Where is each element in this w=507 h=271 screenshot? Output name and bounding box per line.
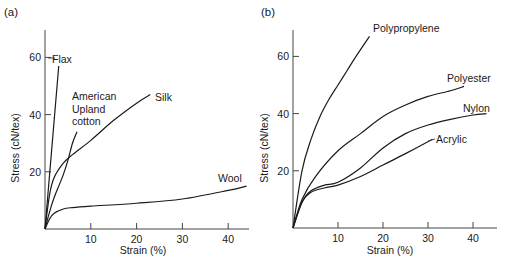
series-line-nylon <box>293 114 487 228</box>
x-tick-label: 10 <box>85 233 97 245</box>
y-tick-label: 20 <box>277 165 289 177</box>
x-tick-label: 40 <box>467 232 479 244</box>
stress-strain-charts: (a)10203040204060Strain (%)Stress (cN/te… <box>0 0 507 271</box>
series-label-flax: Flax <box>52 53 73 65</box>
series-label-polyester: Polyester <box>447 72 491 84</box>
series-label-nylon: Nylon <box>463 102 490 114</box>
y-axis-label: Stress (cN/tex) <box>258 113 270 182</box>
series-label-polypropylene: Polypropylene <box>373 22 440 34</box>
series-line-acrylic <box>293 139 433 228</box>
x-axis-label: Strain (%) <box>120 244 167 256</box>
x-tick-label: 30 <box>177 233 189 245</box>
x-tick-label: 10 <box>332 232 344 244</box>
y-axis-label: Stress (cN/tex) <box>9 113 21 182</box>
panel-label: (a) <box>4 6 18 18</box>
series-label-acrylic: Acrylic <box>436 133 467 145</box>
series-line-american-upland-cotton <box>45 132 77 229</box>
x-tick-label: 30 <box>422 232 434 244</box>
series-label-american-upland-cotton: American <box>72 90 117 102</box>
panel-label: (b) <box>261 6 275 18</box>
series-line-wool <box>45 186 247 229</box>
series-label-wool: Wool <box>218 172 242 184</box>
x-tick-label: 40 <box>222 233 234 245</box>
series-label-american-upland-cotton: cotton <box>72 115 101 127</box>
y-tick-label: 40 <box>277 108 289 120</box>
series-label-american-upland-cotton: Upland <box>72 103 105 115</box>
y-tick-label: 60 <box>29 51 41 63</box>
y-tick-label: 60 <box>277 50 289 62</box>
y-tick-label: 20 <box>29 166 41 178</box>
series-line-polyester <box>293 86 464 228</box>
x-axis-label: Strain (%) <box>367 244 414 256</box>
series-label-silk: Silk <box>155 91 173 103</box>
x-tick-label: 20 <box>377 232 389 244</box>
y-tick-label: 40 <box>29 109 41 121</box>
